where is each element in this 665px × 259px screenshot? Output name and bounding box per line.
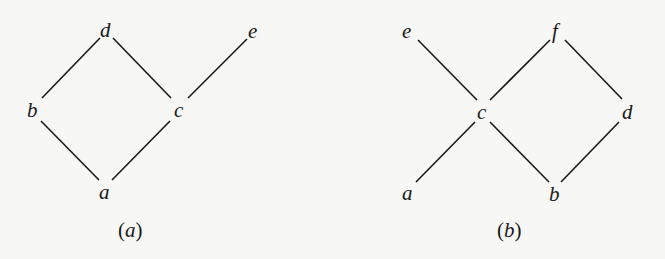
caption-b-open: ( (497, 218, 504, 242)
caption-b-close: ) (515, 218, 522, 242)
node-c: c (174, 98, 184, 122)
figure-b-edges (416, 40, 622, 182)
figure-b: e f c d a b (b) (402, 19, 633, 242)
caption-a-open: ( (118, 218, 125, 242)
edge-c-b (490, 122, 549, 182)
node-d: d (100, 18, 111, 42)
node-e: e (402, 19, 411, 43)
figure-a-nodes: d e b c a (27, 18, 257, 204)
edge-d-b (561, 122, 619, 182)
caption-a-close: ) (136, 218, 143, 242)
caption-b-letter: b (504, 218, 515, 242)
hasse-diagrams: d e b c a (a) e f c d a b (b) (0, 0, 665, 259)
edge-f-d (565, 40, 622, 99)
node-a: a (99, 180, 110, 204)
figure-a-edges (41, 38, 247, 180)
node-b: b (27, 98, 38, 122)
node-f: f (552, 19, 561, 43)
node-b: b (549, 182, 560, 206)
edge-f-c (490, 40, 550, 100)
edge-d-b (42, 38, 100, 98)
edge-c-a (416, 122, 475, 182)
caption-a: (a) (118, 218, 143, 242)
edge-e-c (188, 39, 247, 98)
node-c: c (477, 100, 487, 124)
caption-a-letter: a (125, 218, 136, 242)
figure-b-nodes: e f c d a b (402, 19, 633, 206)
edge-e-c (418, 40, 477, 100)
node-e: e (248, 19, 257, 43)
edge-c-a (112, 121, 170, 180)
node-d: d (622, 100, 633, 124)
figure-a: d e b c a (a) (27, 18, 257, 242)
node-a: a (402, 181, 413, 205)
edge-b-a (41, 121, 99, 180)
edge-d-c (113, 38, 171, 98)
caption-b: (b) (497, 218, 522, 242)
